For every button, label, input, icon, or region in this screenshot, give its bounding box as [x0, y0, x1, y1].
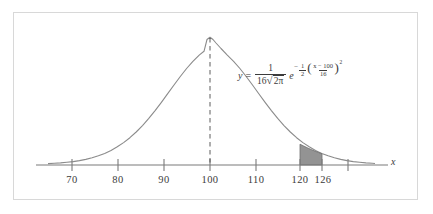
exponent-half-fraction: 1 2	[299, 63, 306, 77]
tick-label-90: 90	[158, 174, 169, 185]
radicand: 2π	[273, 75, 285, 86]
tick-label-80: 80	[112, 174, 123, 185]
tick-label-100: 100	[202, 174, 219, 185]
pdf-equation: y = 1 16√2π e − 1 2 ( x − 100 16 ) 2	[238, 64, 342, 87]
coefficient-numerator: 1	[266, 64, 275, 74]
tick-label-110: 110	[248, 174, 265, 185]
tick-label-126: 126	[315, 174, 332, 185]
z-denominator: 16	[319, 70, 328, 78]
coefficient-denominator: 16√2π	[255, 74, 286, 87]
figure-root: 70 80 90 100 110 120 126 x y = 1 16√2π e…	[0, 0, 433, 214]
sqrt-group: √2π	[267, 75, 285, 87]
tick-label-70: 70	[66, 174, 77, 185]
half-denominator: 2	[299, 70, 306, 78]
exponential-base: e	[289, 70, 293, 81]
paren-open: (	[307, 62, 311, 74]
z-score-fraction: x − 100 16	[312, 63, 334, 77]
equation-lhs: y	[238, 70, 242, 81]
normal-curve	[48, 37, 375, 163]
z-numerator: x − 100	[312, 63, 334, 70]
equation-coefficient-fraction: 1 16√2π	[255, 64, 286, 87]
exponent-power: 2	[339, 59, 342, 65]
exponent-sign: −	[294, 63, 298, 71]
tick-label-120: 120	[292, 174, 309, 185]
paren-close: )	[335, 62, 339, 74]
exponent-group: − 1 2 ( x − 100 16 ) 2	[294, 63, 342, 77]
half-numerator: 1	[299, 63, 306, 70]
x-axis-label: x	[391, 156, 395, 167]
denominator-lead: 16	[257, 76, 267, 86]
equation-equals: =	[245, 70, 251, 81]
